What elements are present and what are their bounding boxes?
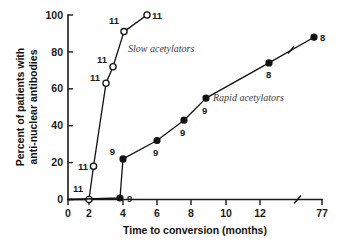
rapid-point-22[interactable]: [120, 156, 126, 162]
x-tick-label-77: 77: [316, 207, 328, 219]
rapid-label-88: 8: [320, 32, 325, 43]
x-axis-title: Time to conversion (months): [123, 224, 267, 236]
slow-point-91[interactable]: [121, 29, 127, 35]
axes: [68, 15, 322, 200]
chart-container: 0 20 40 60 80 100 0 2 4 6 8: [0, 0, 346, 241]
y-tick-label-60: 60: [51, 82, 63, 94]
x-tick-label-10: 10: [220, 207, 232, 219]
slow-label-91: 11: [109, 15, 120, 26]
y-axis-title-line1: Percent of patients with: [14, 48, 26, 166]
x-tick-label-12: 12: [254, 207, 266, 219]
rapid-label-22: 9: [110, 146, 115, 157]
slow-label-100: 11: [152, 10, 163, 21]
y-axis-tick-labels: 0 20 40 60 80 100: [45, 9, 63, 205]
rapid-point-55[interactable]: [203, 95, 209, 101]
slow-label-0: 11: [73, 183, 84, 194]
x-axis-tick-labels: 0 2 4 6 8 10 12 77: [65, 207, 328, 219]
y-tick-label-20: 20: [51, 156, 63, 168]
x-axis-ticks: [68, 200, 322, 206]
x-tick-label-6: 6: [154, 207, 160, 219]
rapid-point-43[interactable]: [181, 117, 187, 123]
x-tick-label-0: 0: [65, 207, 71, 219]
series-slow-acetylators: [68, 12, 150, 203]
y-axis-title-line2: anti-nuclear antibodies: [27, 49, 39, 164]
slow-point-63[interactable]: [103, 80, 109, 86]
rapid-point-32[interactable]: [154, 138, 160, 144]
x-tick-label-4: 4: [120, 207, 126, 219]
rapid-label-0: 9: [127, 193, 132, 204]
series-break-icon: [288, 47, 294, 54]
rapid-point-74[interactable]: [266, 60, 272, 66]
slow-label-63: 11: [90, 72, 101, 83]
rapid-label-32: 9: [153, 147, 158, 158]
x-tick-label-8: 8: [188, 207, 194, 219]
y-tick-label-100: 100: [45, 9, 63, 21]
slow-acetylators-point-labels: 11 11 11 11 11 11: [73, 10, 163, 195]
rapid-point-88[interactable]: [311, 34, 317, 40]
slow-label-72: 11: [97, 54, 108, 65]
anti-nuclear-antibody-conversion-chart: 0 20 40 60 80 100 0 2 4 6 8: [0, 0, 346, 241]
rapid-acetylators-annotation: Rapid acetylators: [212, 92, 284, 103]
slow-point-100[interactable]: [144, 12, 150, 18]
slow-label-18: 11: [78, 161, 89, 172]
slow-acetylators-annotation: Slow acetylators: [128, 43, 194, 54]
rapid-label-74: 8: [266, 69, 271, 80]
slow-point-72[interactable]: [110, 64, 116, 70]
rapid-label-43: 9: [180, 127, 185, 138]
rapid-point-0[interactable]: [117, 195, 123, 201]
y-axis-title: Percent of patients with anti-nuclear an…: [14, 48, 39, 166]
rapid-acetylators-point-labels: 9 9 9 9 9 8 8: [110, 32, 326, 204]
y-tick-label-40: 40: [51, 119, 63, 131]
y-tick-label-0: 0: [57, 193, 63, 205]
rapid-label-55: 9: [202, 105, 207, 116]
slow-point-18[interactable]: [90, 163, 96, 169]
x-tick-label-2: 2: [86, 207, 92, 219]
y-tick-label-80: 80: [51, 46, 63, 58]
